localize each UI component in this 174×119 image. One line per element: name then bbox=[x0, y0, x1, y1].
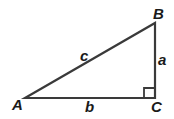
triangle-shape bbox=[25, 23, 155, 98]
vertex-label-c: C bbox=[151, 98, 163, 115]
side-label-a: a bbox=[158, 51, 166, 68]
right-triangle-diagram: B a c A b C bbox=[0, 0, 174, 119]
vertex-label-b: B bbox=[153, 5, 164, 22]
side-label-c: c bbox=[80, 47, 89, 64]
vertex-label-a: A bbox=[11, 96, 23, 113]
side-label-b: b bbox=[85, 98, 94, 115]
right-angle-marker bbox=[144, 88, 155, 98]
